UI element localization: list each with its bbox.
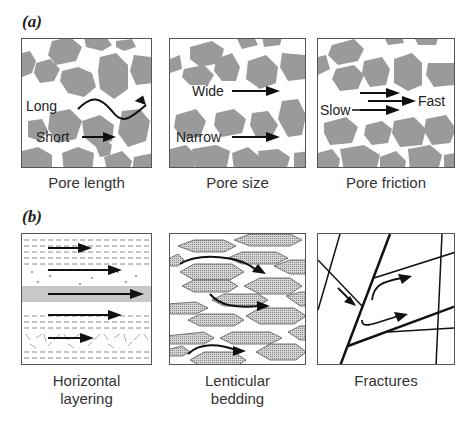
horizontal-layering-box [21, 233, 152, 365]
caption-pore-length: Pore length [21, 174, 152, 192]
label-narrow: Narrow [176, 129, 222, 145]
label-short: Short [36, 129, 70, 145]
lenticular-bedding-box [169, 233, 306, 365]
pore-size-diagram: Wide Narrow [170, 39, 306, 168]
label-wide: Wide [192, 83, 224, 99]
caption-line-1: Fractures [317, 372, 455, 390]
caption-lenticular-bedding: Lenticular bedding [169, 372, 306, 408]
pore-friction-box: Slow Fast [317, 38, 455, 168]
caption-line-2: bedding [169, 390, 306, 408]
caption-line-1: Horizontal [21, 372, 152, 390]
panel-a-label: (a) [22, 12, 42, 32]
fractures-box [317, 233, 455, 365]
caption-line-2: layering [21, 390, 152, 408]
lenticular-bedding-diagram [170, 234, 306, 365]
caption-fractures: Fractures [317, 372, 455, 390]
caption-line-1: Lenticular [169, 372, 306, 390]
caption-pore-size: Pore size [169, 174, 306, 192]
panel-b-label: (b) [22, 207, 42, 227]
label-slow: Slow [320, 102, 351, 118]
caption-pore-friction: Pore friction [317, 174, 455, 192]
pore-friction-diagram: Slow Fast [318, 39, 455, 168]
fractures-diagram [318, 234, 455, 365]
pore-length-diagram: Long Short [22, 39, 152, 168]
label-fast: Fast [418, 93, 445, 109]
pore-length-box: Long Short [21, 38, 152, 168]
pore-size-box: Wide Narrow [169, 38, 306, 168]
label-long: Long [26, 98, 57, 114]
horizontal-layering-diagram [22, 234, 152, 365]
caption-horizontal-layering: Horizontal layering [21, 372, 152, 408]
